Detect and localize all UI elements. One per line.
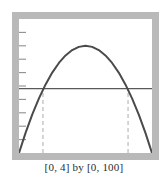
plot-canvas: [19, 19, 152, 153]
parabola: [19, 46, 152, 153]
plot-area: [19, 19, 152, 153]
dashed-drop-lines: [43, 89, 128, 153]
parabola-curve: [19, 46, 152, 153]
graph-figure: [0, 4] by [0, 100]: [0, 0, 168, 182]
y-axis-ticks: [19, 32, 26, 139]
range-caption: [0, 4] by [0, 100]: [0, 161, 168, 173]
